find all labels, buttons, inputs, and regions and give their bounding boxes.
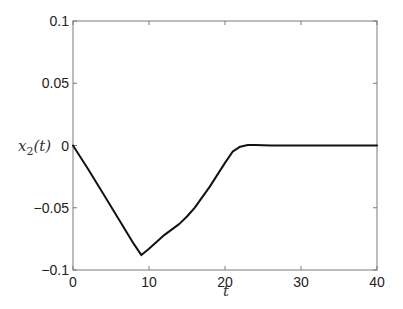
x-tick-label: 10 — [141, 274, 157, 290]
y-tick-label: 0.05 — [42, 75, 69, 91]
y-tick-label: 0.1 — [50, 13, 70, 29]
x-tick-label: 0 — [69, 274, 77, 290]
y-tick-label: 0 — [61, 138, 69, 154]
x-tick-label: 30 — [293, 274, 309, 290]
x-axis-label: t — [223, 282, 230, 300]
y-tick-label: −0.1 — [41, 262, 69, 278]
x-tick-label: 40 — [369, 274, 385, 290]
y-tick-label: −0.05 — [34, 200, 70, 216]
y-axis-label: x2(t) — [18, 137, 51, 158]
line-chart: 010203040−0.1−0.0500.050.1 t x2(t) — [0, 0, 403, 309]
